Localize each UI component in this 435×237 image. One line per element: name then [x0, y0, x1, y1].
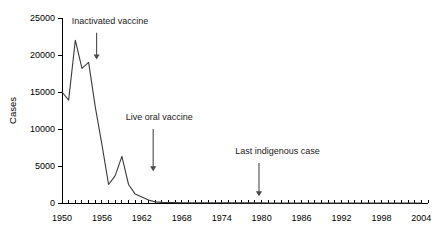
x-tick-label: 1956 — [92, 213, 112, 223]
y-axis-title: Cases — [7, 97, 18, 124]
x-tick-label: 1962 — [132, 213, 152, 223]
y-axis: 0500010000150002000025000 — [30, 13, 62, 208]
annotation-last-indigenous-case: Last indigenous case — [235, 146, 320, 196]
x-tick-label: 1998 — [371, 213, 391, 223]
y-tick-label: 10000 — [30, 124, 55, 134]
y-tick-label: 20000 — [30, 50, 55, 60]
y-axis-title-label: Cases — [7, 97, 18, 124]
x-tick-label: 1950 — [52, 213, 72, 223]
polio-cases-chart: 0500010000150002000025000 19501956196219… — [0, 0, 435, 237]
y-tick-label: 25000 — [30, 13, 55, 23]
y-tick-label: 5000 — [35, 161, 55, 171]
annotation-inactivated-vaccine: Inactivated vaccine — [72, 16, 149, 60]
x-tick-label: 2004 — [411, 213, 431, 223]
x-tick-label: 1968 — [172, 213, 192, 223]
annotation-label: Last indigenous case — [235, 146, 320, 156]
annotation-arrow-head-icon — [94, 54, 100, 59]
data-series-group — [62, 40, 421, 203]
chart-canvas: 0500010000150002000025000 19501956196219… — [0, 0, 435, 237]
annotation-label: Inactivated vaccine — [72, 16, 149, 26]
x-tick-label: 1992 — [331, 213, 351, 223]
x-tick-label: 1986 — [292, 213, 312, 223]
x-tick-label: 1974 — [212, 213, 232, 223]
annotations-group: Inactivated vaccineLive oral vaccineLast… — [72, 16, 320, 196]
annotation-live-oral-vaccine: Live oral vaccine — [126, 112, 193, 171]
annotation-arrow-head-icon — [256, 191, 262, 196]
y-tick-label: 0 — [50, 198, 55, 208]
data-line-cases — [62, 40, 421, 203]
x-tick-label: 1980 — [252, 213, 272, 223]
annotation-arrow-head-icon — [150, 166, 156, 171]
annotation-label: Live oral vaccine — [126, 112, 193, 122]
y-tick-label: 15000 — [30, 87, 55, 97]
